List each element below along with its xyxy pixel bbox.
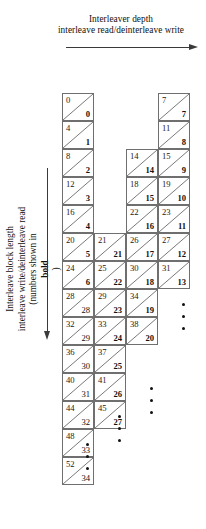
cell-write-index: 21 bbox=[98, 235, 107, 246]
cell-read-index: 14 bbox=[145, 165, 154, 176]
grid-cell: 123 bbox=[62, 177, 94, 205]
grid-cell: 2216 bbox=[126, 205, 158, 233]
grid-cell: 2522 bbox=[94, 261, 126, 289]
grid-cell: 3018 bbox=[126, 261, 158, 289]
cell-read-index: 20 bbox=[145, 333, 154, 344]
cell-read-index: 9 bbox=[182, 165, 186, 176]
cell-write-index: 27 bbox=[162, 235, 171, 246]
cell-read-index: 7 bbox=[182, 109, 186, 120]
cell-write-index: 24 bbox=[66, 263, 75, 274]
interleaver-grid: 0041821231642052462828322936304031443248… bbox=[0, 0, 206, 529]
grid-cell: 41 bbox=[62, 121, 94, 149]
cell-read-index: 1 bbox=[86, 137, 90, 148]
cell-write-index: 48 bbox=[66, 431, 75, 442]
cell-read-index: 26 bbox=[113, 389, 122, 400]
grid-cell: 2311 bbox=[158, 205, 190, 233]
cell-write-index: 41 bbox=[98, 375, 107, 386]
ellipsis-dot bbox=[118, 415, 121, 418]
cell-read-index: 16 bbox=[145, 221, 154, 232]
grid-cell: 164 bbox=[62, 205, 94, 233]
cell-read-index: 28 bbox=[81, 305, 90, 316]
cell-write-index: 36 bbox=[66, 347, 75, 358]
cell-write-index: 28 bbox=[66, 291, 75, 302]
grid-cell: 1815 bbox=[126, 177, 158, 205]
cell-write-index: 8 bbox=[66, 151, 70, 162]
cell-write-index: 44 bbox=[66, 403, 75, 414]
grid-cell: 2712 bbox=[158, 233, 190, 261]
cell-write-index: 14 bbox=[130, 151, 139, 162]
cell-read-index: 24 bbox=[113, 333, 122, 344]
cell-read-index: 17 bbox=[145, 249, 154, 260]
grid-cell: 3229 bbox=[62, 317, 94, 345]
cell-read-index: 5 bbox=[86, 249, 90, 260]
grid-cell: 3113 bbox=[158, 261, 190, 289]
cell-write-index: 4 bbox=[66, 123, 70, 134]
cell-read-index: 11 bbox=[178, 221, 186, 232]
cell-write-index: 0 bbox=[66, 95, 70, 106]
grid-cell: 4432 bbox=[62, 401, 94, 429]
ellipsis-col2 bbox=[118, 415, 128, 442]
ellipsis-dot bbox=[118, 439, 121, 442]
cell-read-index: 21 bbox=[113, 249, 122, 260]
ellipsis-dot bbox=[86, 443, 89, 446]
cell-write-index: 15 bbox=[162, 151, 171, 162]
ellipsis-col3 bbox=[150, 387, 160, 414]
cell-read-index: 4 bbox=[86, 221, 90, 232]
ellipsis-dot bbox=[86, 467, 89, 470]
cell-read-index: 2 bbox=[86, 165, 90, 176]
cell-write-index: 20 bbox=[66, 235, 75, 246]
cell-read-index: 12 bbox=[177, 249, 186, 260]
cell-read-index: 13 bbox=[177, 277, 186, 288]
grid-cell: 77 bbox=[158, 93, 190, 121]
grid-cell: 00 bbox=[62, 93, 94, 121]
cell-write-index: 33 bbox=[98, 319, 107, 330]
cell-write-index: 52 bbox=[66, 459, 75, 470]
cell-read-index: 30 bbox=[81, 361, 90, 372]
cell-write-index: 26 bbox=[130, 235, 139, 246]
cell-write-index: 45 bbox=[98, 403, 107, 414]
cell-read-index: 6 bbox=[86, 277, 90, 288]
ellipsis-dot bbox=[182, 315, 185, 318]
cell-write-index: 31 bbox=[162, 263, 171, 274]
grid-cell: 3630 bbox=[62, 345, 94, 373]
cell-read-index: 3 bbox=[86, 193, 90, 204]
cell-read-index: 15 bbox=[145, 193, 154, 204]
cell-write-index: 22 bbox=[130, 207, 139, 218]
ellipsis-dot bbox=[182, 303, 185, 306]
grid-cell: 1414 bbox=[126, 149, 158, 177]
cell-write-index: 40 bbox=[66, 375, 75, 386]
cell-read-index: 18 bbox=[145, 277, 154, 288]
cell-write-index: 38 bbox=[130, 319, 139, 330]
interleaver-figure: Interleaver depth interleave read/deinte… bbox=[0, 0, 206, 529]
grid-cell: 246 bbox=[62, 261, 94, 289]
ellipsis-dot bbox=[86, 455, 89, 458]
grid-cell: 4126 bbox=[94, 373, 126, 401]
cell-write-index: 37 bbox=[98, 347, 107, 358]
ellipsis-dot bbox=[118, 427, 121, 430]
cell-write-index: 11 bbox=[162, 123, 170, 134]
cell-write-index: 29 bbox=[98, 291, 107, 302]
cell-write-index: 34 bbox=[130, 291, 139, 302]
cell-write-index: 32 bbox=[66, 319, 75, 330]
ellipsis-col4 bbox=[182, 303, 192, 330]
grid-cell: 3725 bbox=[94, 345, 126, 373]
cell-read-index: 32 bbox=[81, 417, 90, 428]
ellipsis-dot bbox=[150, 387, 153, 390]
cell-read-index: 29 bbox=[81, 333, 90, 344]
cell-write-index: 12 bbox=[66, 179, 75, 190]
grid-cell: 159 bbox=[158, 149, 190, 177]
cell-write-index: 30 bbox=[130, 263, 139, 274]
grid-cell: 1910 bbox=[158, 177, 190, 205]
cell-write-index: 23 bbox=[162, 207, 171, 218]
cell-write-index: 7 bbox=[162, 95, 166, 106]
cell-write-index: 16 bbox=[66, 207, 75, 218]
cell-write-index: 25 bbox=[98, 263, 107, 274]
grid-cell: 2121 bbox=[94, 233, 126, 261]
cell-read-index: 25 bbox=[113, 361, 122, 372]
grid-cell: 2617 bbox=[126, 233, 158, 261]
ellipsis-dot bbox=[182, 327, 185, 330]
ellipsis-dot bbox=[150, 399, 153, 402]
cell-read-index: 10 bbox=[177, 193, 186, 204]
cell-read-index: 31 bbox=[81, 389, 90, 400]
ellipsis-dots bbox=[86, 443, 96, 470]
